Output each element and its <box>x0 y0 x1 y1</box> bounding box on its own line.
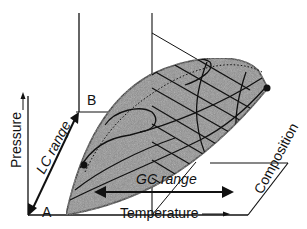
gc-range-label: GC range <box>136 171 197 187</box>
critical-point-left <box>81 162 88 169</box>
pressure-label: Pressure <box>8 112 24 168</box>
pressure-arrow <box>21 92 26 110</box>
phase-diagram: B A LC range GC range Temperature Pressu… <box>0 0 307 229</box>
point-label-b: B <box>87 92 96 108</box>
temperature-arrow <box>202 212 230 217</box>
critical-point-right <box>264 85 271 92</box>
phase-envelope <box>66 33 268 215</box>
composition-label: Composition <box>251 120 302 196</box>
temperature-label: Temperature <box>120 205 199 221</box>
point-label-a: A <box>42 204 52 220</box>
